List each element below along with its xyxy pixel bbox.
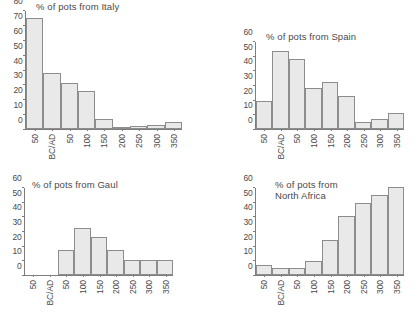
y-tick-north-africa-10: 10 [243,246,255,256]
y-tick-italy-30: 30 [13,70,25,80]
bar[interactable] [140,260,156,275]
bar[interactable] [61,83,78,129]
x-tickmark [331,129,332,131]
x-tick-label: 350 [161,280,171,294]
bar[interactable] [272,51,288,129]
x-tick-cell: 100 [306,277,323,317]
bar[interactable] [355,122,371,129]
bar[interactable] [107,250,123,275]
x-tick-cell: 50 [256,131,273,171]
bar[interactable] [388,113,404,129]
bar[interactable] [371,195,387,275]
bar-cell [74,188,90,275]
bar[interactable] [43,73,60,129]
x-tick-label: 350 [169,134,179,148]
y-tickmark-spain-20 [253,100,255,101]
x-tickmark [66,275,67,277]
x-tick-label: BC/AD [47,134,57,159]
x-tickmark [174,129,175,131]
x-tick-cell: 150 [322,277,339,317]
x-tick-cell: 300 [148,131,165,171]
x-tick-cell: 200 [339,277,356,317]
bar[interactable] [256,101,272,129]
y-tickmark-italy-40 [23,70,25,71]
y-tickmark-italy-30 [23,84,25,85]
y-tick-north-africa-40: 40 [243,202,255,212]
y-tick-italy-10: 10 [13,100,25,110]
bar-cell [289,188,305,275]
bar-series-north-africa [256,188,404,275]
bar[interactable] [95,119,112,129]
y-tick-spain-0: 0 [248,115,255,125]
plot-area-spain: 0102030405060 [255,42,404,130]
x-tickmark [157,129,158,131]
bar[interactable] [58,250,74,275]
x-tick-cell: 200 [113,131,130,171]
bar[interactable] [371,119,387,129]
bar-cell [388,188,404,275]
x-tickmark [166,275,167,277]
y-tick-spain-60: 60 [243,27,255,37]
bar[interactable] [165,122,182,129]
bar[interactable] [355,203,371,275]
bar[interactable] [256,265,272,275]
x-tick-cell: 200 [339,131,356,171]
bar[interactable] [305,261,321,275]
x-axis-north-africa [255,275,404,276]
bar[interactable] [74,228,90,275]
x-tickmark [52,129,53,131]
x-tick-label: 200 [111,280,121,294]
x-tick-label: 50 [259,280,269,289]
x-tick-cell: 50 [25,277,42,317]
bar-cell [305,188,321,275]
plot-area-italy: 01020304050607080 [25,11,182,130]
panel-gaul: % of pots from Gaul 0102030405060 50BC/A… [0,178,200,321]
plot-area-gaul: 0102030405060 [24,188,173,276]
y-tick-north-africa-60: 60 [243,173,255,183]
x-tickmark [380,275,381,277]
bar[interactable] [157,260,173,275]
x-tick-cell: 100 [75,277,92,317]
bar[interactable] [124,260,140,275]
x-tickmark [380,129,381,131]
x-tick-label: 100 [309,280,319,294]
x-tick-label: 200 [342,280,352,294]
x-tickmark [297,275,298,277]
x-tick-cell: 50 [289,277,306,317]
x-tick-label: 250 [128,280,138,294]
x-tick-label: 150 [326,134,336,148]
y-tickmark-gaul-50 [22,202,24,203]
bar-cell [388,42,404,129]
x-tick-labels-north-africa: 50BC/AD50100150200250300350 [256,277,405,317]
bar[interactable] [91,237,107,275]
y-tickmark-italy-60 [23,40,25,41]
y-tick-spain-50: 50 [243,42,255,52]
bar[interactable] [305,88,321,129]
bar[interactable] [289,59,305,129]
bar[interactable] [338,96,354,129]
bar[interactable] [388,187,404,275]
x-tick-label: 50 [292,280,302,289]
x-tickmark [139,129,140,131]
bar[interactable] [322,82,338,129]
bar-cell [107,188,123,275]
x-tickmark [104,129,105,131]
x-tick-cell: 150 [91,277,108,317]
bar[interactable] [322,240,338,275]
x-tick-label: 300 [152,134,162,148]
bar[interactable] [338,216,354,275]
x-tick-label: 250 [359,134,369,148]
bar-cell [58,188,74,275]
x-tick-label: 300 [375,280,385,294]
bar-cell [130,11,147,129]
y-tick-gaul-0: 0 [17,261,24,271]
bar[interactable] [26,18,43,129]
bar-cell [78,11,95,129]
bar-cell [41,188,57,275]
x-tick-label: 350 [392,280,402,294]
x-tickmark [33,275,34,277]
x-tick-cell: 300 [372,277,389,317]
bar[interactable] [78,91,95,129]
x-tickmark [347,275,348,277]
x-tickmark [133,275,134,277]
